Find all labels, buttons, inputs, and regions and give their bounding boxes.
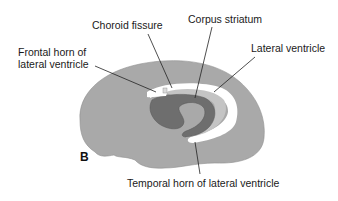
label-temporal-horn: Temporal horn of lateral ventricle bbox=[127, 177, 279, 189]
choroid-fissure-mark bbox=[163, 88, 167, 93]
label-frontal-horn-line2: lateral ventricle bbox=[18, 58, 89, 70]
label-lateral-ventricle: Lateral ventricle bbox=[251, 42, 325, 54]
panel-label: B bbox=[80, 150, 89, 164]
label-corpus-striatum: Corpus striatum bbox=[188, 13, 262, 25]
brain-diagram bbox=[0, 0, 338, 201]
label-choroid-fissure: Choroid fissure bbox=[92, 19, 163, 31]
label-frontal-horn-line1: Frontal horn of bbox=[18, 46, 86, 58]
